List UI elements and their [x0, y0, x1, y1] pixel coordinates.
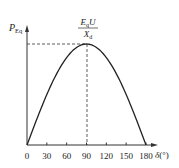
x-tick-label: 180 [139, 151, 153, 161]
x-axis-tick-labels: 0306090120150180 [25, 151, 154, 161]
x-tick-label: 30 [42, 151, 52, 161]
svg-text:Xd: Xd [83, 29, 93, 40]
peak-annotation: EqU Xd [78, 17, 98, 40]
power-angle-chart: 0306090120150180 PEq δ(°) EqU Xd [0, 0, 179, 168]
x-axis-arrow-icon [151, 143, 158, 147]
x-tick-label: 90 [82, 151, 92, 161]
x-axis-label: δ(°) [155, 150, 169, 160]
y-axis-arrow-icon [25, 25, 29, 32]
svg-text:EqU: EqU [80, 17, 97, 28]
x-tick-label: 60 [62, 151, 72, 161]
x-tick-label: 150 [119, 151, 133, 161]
y-axis-label: PEq [8, 22, 23, 34]
x-tick-label: 0 [25, 151, 30, 161]
power-angle-curve [27, 44, 146, 145]
x-tick-label: 120 [100, 151, 114, 161]
